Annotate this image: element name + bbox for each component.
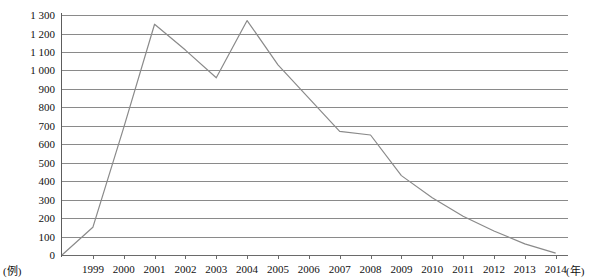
x-axis-tick-label: 2000 (113, 264, 135, 275)
y-axis-tick-label: 500 (5, 158, 55, 169)
y-axis-tick-label: 900 (5, 84, 55, 95)
x-axis-tick-label: 2013 (514, 264, 536, 275)
x-axis-tick (340, 255, 341, 259)
x-axis-tick (185, 255, 186, 259)
y-axis-tick-label: 1 300 (5, 10, 55, 21)
y-axis-tick-label: 400 (5, 176, 55, 187)
y-axis-tick-label: 100 (5, 232, 55, 243)
y-axis-tick-label: 200 (5, 213, 55, 224)
y-axis-tick-label: 700 (5, 121, 55, 132)
y-axis-unit-label: (例) (3, 262, 21, 278)
y-axis-tick-label: 1 100 (5, 47, 55, 58)
x-axis-tick (525, 255, 526, 259)
x-axis-tick (247, 255, 248, 259)
y-axis-tick-label: 1 000 (5, 65, 55, 76)
x-axis-unit-label: (年) (566, 262, 584, 278)
x-axis-tick-label: 2012 (483, 264, 505, 275)
y-axis-tick-label: 300 (5, 195, 55, 206)
x-axis-tick (155, 255, 156, 259)
x-axis-tick-label: 1999 (82, 264, 104, 275)
x-axis-tick (278, 255, 279, 259)
x-axis-tick (371, 255, 372, 259)
x-axis-tick-label: 2014 (545, 264, 567, 275)
x-axis-tick (93, 255, 94, 259)
x-axis-tick-label: 2004 (236, 264, 258, 275)
x-axis-tick-label: 2006 (298, 264, 320, 275)
y-axis-tick-label: 0 (5, 250, 55, 261)
x-axis-tick (309, 255, 310, 259)
y-axis-tick-labels: 1 3001 2001 1001 00090080070060050040030… (0, 0, 600, 280)
x-axis-tick (463, 255, 464, 259)
x-axis-tick (432, 255, 433, 259)
x-axis-tick (124, 255, 125, 259)
x-axis-tick-label: 2005 (267, 264, 289, 275)
y-axis-tick-label: 1 200 (5, 29, 55, 40)
y-axis-tick-label: 600 (5, 139, 55, 150)
x-axis-tick-label: 2008 (360, 264, 382, 275)
x-axis-tick-label: 2002 (174, 264, 196, 275)
x-axis-tick-label: 2001 (144, 264, 166, 275)
x-axis-tick-label: 2011 (452, 264, 474, 275)
line-chart: 1 3001 2001 1001 00090080070060050040030… (0, 0, 600, 280)
x-axis-tick (216, 255, 217, 259)
x-axis-tick-label: 2009 (390, 264, 412, 275)
x-axis-tick (556, 255, 557, 259)
x-axis-tick (401, 255, 402, 259)
x-axis-tick-label: 2003 (205, 264, 227, 275)
y-axis-tick-label: 800 (5, 102, 55, 113)
x-axis-tick-label: 2007 (329, 264, 351, 275)
x-axis-tick (494, 255, 495, 259)
x-axis-tick-label: 2010 (421, 264, 443, 275)
